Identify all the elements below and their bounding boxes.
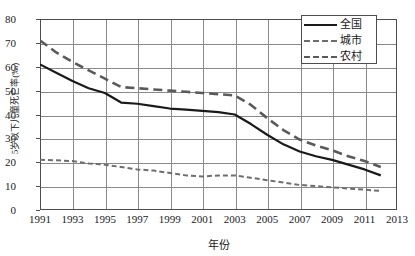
x-axis-title: 年份 <box>40 236 398 252</box>
y-axis-tick-mark <box>36 210 40 211</box>
legend-label-national: 全国 <box>337 19 362 30</box>
series-line-城市 <box>40 160 381 191</box>
legend-swatch-solid-icon <box>304 20 337 30</box>
x-axis-tick-label: 2013 <box>377 214 415 225</box>
legend-swatch-dotted-icon <box>304 36 337 46</box>
y-axis-tick-mark <box>36 19 40 20</box>
chart-legend: 全国 城市 农村 <box>301 15 377 64</box>
legend-label-rural: 农村 <box>337 51 362 62</box>
legend-item-national: 全国 <box>302 17 376 32</box>
legend-item-rural: 农村 <box>302 49 376 64</box>
y-axis-tick-label: 20 <box>0 157 16 168</box>
y-axis-tick-label: 80 <box>0 14 16 25</box>
y-axis-tick-mark <box>36 115 40 116</box>
y-axis-tick-label: 40 <box>0 110 16 121</box>
y-axis-tick-mark <box>36 91 40 92</box>
y-axis-tick-label: 30 <box>0 133 16 144</box>
y-axis-tick-label: 70 <box>0 38 16 49</box>
legend-swatch-dashed-icon <box>304 52 337 62</box>
y-axis-tick-mark <box>36 67 40 68</box>
chart-container: 5岁以下儿童死亡率(‰) 01020304050607080 199119931… <box>0 0 415 256</box>
y-axis-tick-mark <box>36 138 40 139</box>
y-axis-tick-label: 60 <box>0 62 16 73</box>
y-axis-tick-mark <box>36 43 40 44</box>
legend-item-urban: 城市 <box>302 33 376 48</box>
y-axis-tick-label: 50 <box>0 86 16 97</box>
y-axis-tick-mark <box>36 162 40 163</box>
y-axis-tick-mark <box>36 186 40 187</box>
series-line-全国 <box>40 64 381 175</box>
y-axis-tick-label: 0 <box>0 205 16 216</box>
legend-label-urban: 城市 <box>337 35 362 46</box>
y-axis-tick-label: 10 <box>0 181 16 192</box>
